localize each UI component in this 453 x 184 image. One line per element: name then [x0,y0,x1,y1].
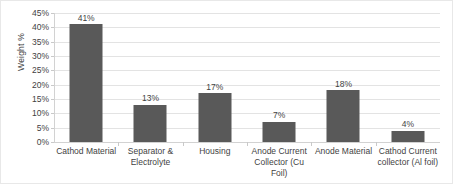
y-tick-label: 45% [1,9,49,18]
bar[interactable] [263,122,296,142]
y-tick-label: 10% [1,109,49,118]
bar[interactable] [70,24,103,142]
x-axis-label-line: Cathod Material [54,146,118,157]
y-tick-label: 30% [1,52,49,61]
x-axis-label-line: Separator & [118,146,182,157]
x-axis-label-line: Anode Current [247,146,311,157]
bar-value-label: 4% [402,120,414,129]
y-tick-mark [51,142,54,143]
y-tick-label: 0% [1,138,49,147]
y-tick-label: 15% [1,95,49,104]
y-tick-label: 35% [1,38,49,47]
bar-slot: 7% [247,13,311,142]
y-tick-label: 40% [1,23,49,32]
x-axis-label-line: Collector (Cu Foil) [247,157,311,179]
x-axis-label-line: collector (Al foil) [376,157,440,168]
bar-value-label: 17% [206,83,223,92]
y-tick-label: 25% [1,66,49,75]
x-axis-label: Housing [183,146,247,157]
bar-value-label: 13% [142,94,159,103]
x-axis-label: Separator &Electrolyte [118,146,182,168]
bar-series: 41%13%17%7%18%4% [54,13,440,142]
bar-slot: 17% [183,13,247,142]
bar-slot: 13% [118,13,182,142]
bar[interactable] [134,105,167,142]
x-axis-label-line: Housing [183,146,247,157]
bar-slot: 18% [311,13,375,142]
x-axis-label: Cathod Material [54,146,118,157]
bar[interactable] [198,93,231,142]
y-tick-label: 20% [1,81,49,90]
x-axis-label-line: Electrolyte [118,157,182,168]
x-axis-label-line: Anode Material [311,146,375,157]
bar[interactable] [391,131,424,142]
bar-value-label: 41% [78,14,95,23]
bar-value-label: 7% [273,111,285,120]
plot-area: 41%13%17%7%18%4% [54,13,440,142]
bar-slot: 41% [54,13,118,142]
x-axis-category-labels: Cathod MaterialSeparator &ElectrolyteHou… [54,146,440,184]
bar[interactable] [327,90,360,142]
x-axis-label: Cathod Currentcollector (Al foil) [376,146,440,168]
x-axis-label: Anode Material [311,146,375,157]
bar-chart: Weight % 45%40%35%30%25%20%15%10%5%0% 41… [0,0,453,184]
bar-value-label: 18% [335,80,352,89]
x-axis-label-line: Cathod Current [376,146,440,157]
y-axis-tick-labels: 45%40%35%30%25%20%15%10%5%0% [1,13,49,142]
x-axis-label: Anode CurrentCollector (Cu Foil) [247,146,311,179]
bar-slot: 4% [376,13,440,142]
y-tick-label: 5% [1,124,49,133]
